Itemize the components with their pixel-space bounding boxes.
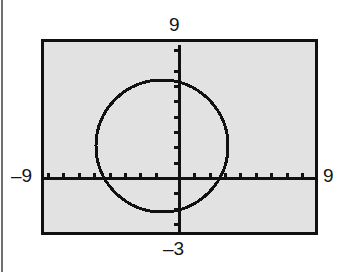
screenshot-page: 9 –3 –9 9 xyxy=(0,0,352,272)
page-edge-rule xyxy=(1,0,3,272)
graph-plot xyxy=(44,42,315,232)
calculator-screen xyxy=(41,39,318,235)
y-min-label: –3 xyxy=(163,239,184,258)
x-max-label: 9 xyxy=(323,166,334,185)
y-max-label: 9 xyxy=(169,15,180,34)
circle-trace xyxy=(96,80,228,212)
x-min-label: –9 xyxy=(11,166,32,185)
